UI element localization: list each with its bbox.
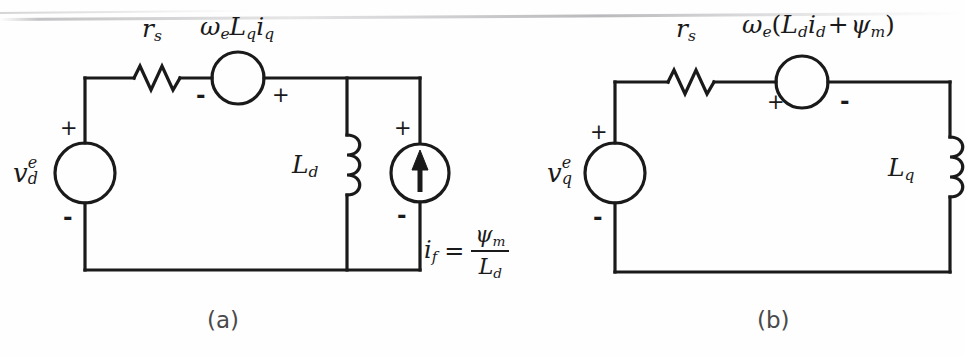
circuit-schematic-svg [0, 0, 965, 357]
dependent-source-b-minus-sign: - [840, 90, 850, 113]
figure-container: rs ωeLqiq - + ved + - Ld + - if = ψm Ld … [0, 0, 965, 357]
equation-equals-sign: = [437, 237, 471, 265]
voltage-source-b-label: veq [547, 156, 573, 188]
resistor-a-rs-label: rs [142, 16, 162, 45]
voltage-source-a-label: ved [13, 156, 39, 188]
voltage-source-a-minus-sign: - [63, 206, 73, 229]
current-source-a-equation: if = ψm Ld [424, 222, 509, 281]
dependent-source-a-minus-sign: - [196, 84, 206, 107]
dependent-source-a-label: ωeLqiq [200, 14, 274, 43]
dependent-source-b-plus-sign: + [767, 92, 785, 113]
dependent-source-a-plus-sign: + [272, 85, 290, 106]
resistor-b-rs-symbol [668, 70, 714, 94]
inductor-b-Lq-symbol [950, 137, 963, 197]
voltage-source-a-plus-sign: + [60, 118, 78, 139]
equation-denominator: Ld [476, 252, 505, 281]
resistor-b-rs-label: rs [676, 16, 696, 45]
voltage-source-b-circle [585, 143, 645, 203]
equation-lhs: if [424, 236, 437, 266]
current-source-a-minus-sign: - [397, 204, 407, 227]
resistor-a-rs-symbol [134, 66, 180, 90]
inductor-a-Ld-label: Ld [292, 152, 319, 181]
current-source-a-plus-sign: + [394, 118, 412, 139]
panel-a-caption: (a) [207, 309, 239, 332]
dependent-source-a-circle [212, 52, 264, 104]
voltage-source-b-plus-sign: + [590, 122, 608, 143]
inductor-a-Ld-symbol [347, 135, 360, 195]
panel-b-caption: (b) [757, 309, 790, 332]
voltage-source-a-circle [55, 143, 115, 203]
current-source-a-arrow-icon [412, 150, 428, 192]
equation-numerator: ψm [472, 222, 508, 250]
inductor-b-Lq-label: Lq [888, 155, 915, 184]
equation-fraction: ψm Ld [471, 222, 509, 281]
dependent-source-b-label: ωe(Ldid+ψm) [742, 12, 895, 41]
voltage-source-b-minus-sign: - [593, 206, 603, 229]
